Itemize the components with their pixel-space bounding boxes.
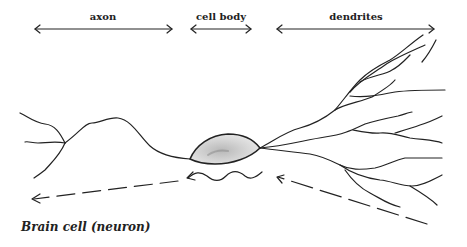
signal-arrow-cell-body [187,172,262,181]
dendrites-range-arrow [277,25,434,33]
axon [20,113,190,178]
neuron-diagram: axon cell body dendrites Brain cell (neu… [0,0,467,247]
cell-body-label: cell body [196,11,246,22]
signal-arrow-dendrites [277,175,427,224]
dendrites [260,35,445,207]
cell-body [190,134,260,164]
neuron-illustration [0,0,467,247]
axon-range-arrow [35,25,172,33]
cell-body-range-arrow [191,25,251,33]
axon-label: axon [90,11,116,22]
dendrites-label: dendrites [329,11,382,22]
signal-arrow-axon [32,181,178,203]
figure-caption: Brain cell (neuron) [21,220,150,234]
